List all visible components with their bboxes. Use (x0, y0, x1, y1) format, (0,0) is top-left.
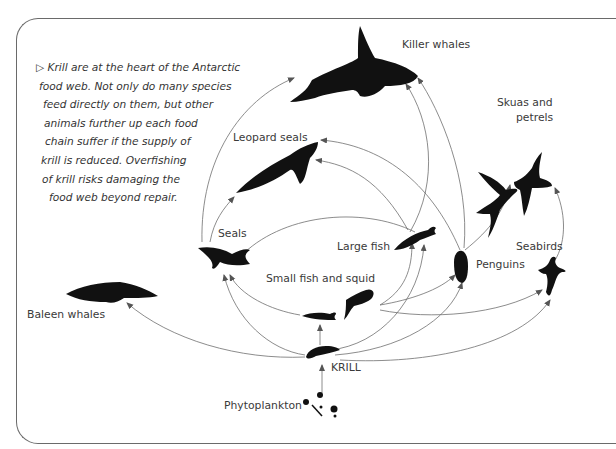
label-killer-whales: Killer whales (402, 38, 470, 51)
phytoplankton-icon (303, 392, 338, 418)
label-phytoplankton: Phytoplankton (224, 399, 302, 412)
label-large-fish: Large fish (337, 240, 390, 253)
penguin-icon (454, 251, 468, 283)
seal-icon (198, 247, 250, 269)
label-seabirds: Seabirds (516, 240, 563, 253)
leopard-seal-icon (236, 142, 318, 193)
petrel-icon (514, 152, 552, 216)
squid-icon (344, 289, 374, 320)
killer-whale-icon (290, 26, 418, 102)
label-petrels: petrels (516, 111, 553, 124)
arrows (127, 78, 564, 393)
krill-icon (306, 346, 340, 359)
large-fish-icon (394, 227, 436, 250)
label-leopard-seals: Leopard seals (233, 131, 308, 144)
silhouettes (66, 26, 566, 418)
label-small-fish-and-squid: Small fish and squid (266, 272, 375, 285)
label-penguins: Penguins (476, 258, 525, 271)
small-fish-icon (302, 313, 336, 321)
seabird-icon (538, 257, 566, 296)
label-baleen-whales: Baleen whales (27, 308, 105, 321)
label-krill: KRILL (331, 361, 361, 374)
label-seals: Seals (218, 227, 247, 240)
skua-icon (476, 172, 517, 238)
label-skuas-and: Skuas and (497, 96, 553, 109)
baleen-whale-icon (66, 282, 158, 303)
